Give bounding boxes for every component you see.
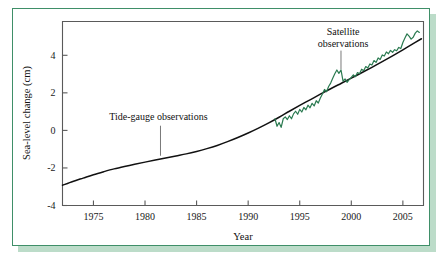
y-tick-label: -4 (47, 200, 55, 211)
tide-gauge-annotation-label: Tide-gauge observations (109, 111, 207, 122)
x-tick-label: 1975 (83, 211, 103, 222)
y-tick-label: 2 (51, 87, 56, 98)
y-tick-label: -2 (47, 162, 55, 173)
satellite-annotation: Satellite observations (318, 26, 369, 70)
y-axis-ticks: -4-2024 (47, 50, 67, 211)
x-tick-label: 1995 (290, 211, 310, 222)
satellite-annotation-label-line1: Satellite (327, 26, 360, 37)
satellite-annotation-label-line2: observations (318, 38, 369, 49)
figure-root: 1975198019851990199520002005 -4-2024 Yea… (0, 0, 447, 265)
tide-gauge-annotation: Tide-gauge observations (109, 111, 207, 156)
x-tick-label: 1985 (187, 211, 207, 222)
x-axis-title: Year (233, 231, 253, 242)
sea-level-change-chart: 1975198019851990199520002005 -4-2024 Yea… (0, 0, 447, 265)
x-tick-label: 2005 (393, 211, 413, 222)
x-tick-label: 2000 (341, 211, 361, 222)
x-tick-label: 1990 (238, 211, 258, 222)
x-tick-label: 1980 (135, 211, 155, 222)
y-axis-title: Sea-level change (cm) (21, 66, 33, 160)
y-tick-label: 0 (51, 125, 56, 136)
y-tick-label: 4 (51, 50, 56, 61)
x-axis-ticks: 1975198019851990199520002005 (83, 201, 412, 222)
